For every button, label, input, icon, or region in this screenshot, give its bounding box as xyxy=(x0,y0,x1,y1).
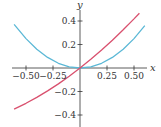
y-tick-label: 0.2 xyxy=(62,40,76,50)
curves xyxy=(14,13,145,109)
y-tick-label: 0.4 xyxy=(62,16,77,26)
y-tick-label: −0.4 xyxy=(54,110,76,120)
y-axis-label: y xyxy=(76,0,83,10)
line-chart: xy −0.50−0.250.250.500.40.2−0.2−0.4 xyxy=(0,0,161,127)
x-tick-label: −0.25 xyxy=(39,71,67,81)
x-tick-label: 0.50 xyxy=(124,71,144,81)
blue-parabola-curve xyxy=(14,24,145,68)
y-tick-label: −0.2 xyxy=(54,87,76,97)
x-tick-label: −0.50 xyxy=(12,71,40,81)
x-axis-label: x xyxy=(150,62,156,73)
x-tick-label: 0.25 xyxy=(97,71,117,81)
red-curve xyxy=(14,13,139,109)
